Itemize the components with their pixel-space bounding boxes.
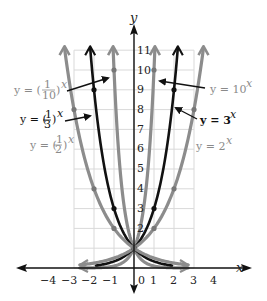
- svg-text:3: 3: [44, 118, 51, 131]
- svg-text:y = 2: y = 2: [195, 140, 225, 153]
- x-tick-labels: −4 −3 −2 −1 0 1 2 3 4: [40, 274, 217, 287]
- x-tick: 1: [150, 274, 157, 287]
- svg-text:x: x: [226, 134, 233, 147]
- data-point: [171, 87, 176, 92]
- svg-text:): ): [63, 139, 67, 152]
- arrow-to-one-tenth-curve: [67, 78, 108, 91]
- svg-text:): ): [52, 113, 56, 126]
- x-tick: −2: [81, 274, 97, 287]
- svg-text:x: x: [230, 108, 237, 121]
- y-tick: 11: [137, 44, 151, 57]
- svg-text:2: 2: [55, 143, 62, 156]
- data-point: [151, 206, 156, 211]
- data-point: [171, 186, 176, 191]
- svg-text:x: x: [68, 133, 75, 146]
- x-tick: 2: [170, 274, 177, 287]
- svg-text:x: x: [246, 77, 253, 90]
- label-one-third-power: y = ( 1 3 ) x: [19, 107, 90, 131]
- y-tick: 5: [137, 162, 144, 175]
- x-tick: 0: [138, 274, 145, 287]
- data-point: [71, 107, 76, 112]
- label-two-power: y = 2 x: [195, 134, 233, 153]
- data-point: [91, 87, 96, 92]
- x-tick: 4: [210, 274, 217, 287]
- data-point: [111, 226, 116, 231]
- y-tick: 7: [137, 123, 144, 136]
- y-tick: 8: [137, 103, 144, 116]
- y-tick: 4: [137, 182, 144, 195]
- svg-text:x: x: [57, 107, 64, 120]
- data-point: [91, 186, 96, 191]
- data-point: [191, 107, 196, 112]
- data-point: [111, 206, 116, 211]
- y-tick: 10: [137, 64, 151, 77]
- svg-text:10: 10: [42, 89, 56, 102]
- label-one-half-power: y = ( 1 2 ) x: [29, 133, 75, 156]
- label-three-power: y = 3 x: [176, 108, 237, 127]
- y-tick: 9: [137, 83, 144, 96]
- data-point: [151, 226, 156, 231]
- curve-y-1-2-x: [65, 48, 188, 265]
- svg-text:y = 10: y = 10: [209, 83, 246, 96]
- x-tick: −3: [61, 274, 77, 287]
- svg-text:x: x: [61, 78, 68, 91]
- svg-text:y = 3: y = 3: [199, 114, 231, 127]
- y-tick: 3: [137, 202, 144, 215]
- y-tick: 6: [137, 142, 144, 155]
- svg-text:y = (: y = (: [19, 113, 47, 126]
- exponential-functions-chart: x y −4 −3 −2 −1 0 1 2 3 4 2 3 4 5 6 7 8 …: [0, 0, 267, 301]
- svg-text:y = (: y = (: [13, 84, 41, 97]
- y-axis-label: y: [129, 10, 138, 25]
- data-point: [111, 67, 116, 72]
- x-tick: −1: [102, 274, 118, 287]
- x-tick: 3: [190, 274, 197, 287]
- curve-y-1-3-x: [90, 48, 172, 265]
- svg-text:): ): [56, 84, 60, 97]
- y-tick: 2: [137, 222, 144, 235]
- x-axis-label: x: [236, 260, 244, 275]
- svg-text:y = (: y = (: [29, 139, 57, 152]
- data-point: [151, 67, 156, 72]
- x-tick: −4: [40, 274, 56, 287]
